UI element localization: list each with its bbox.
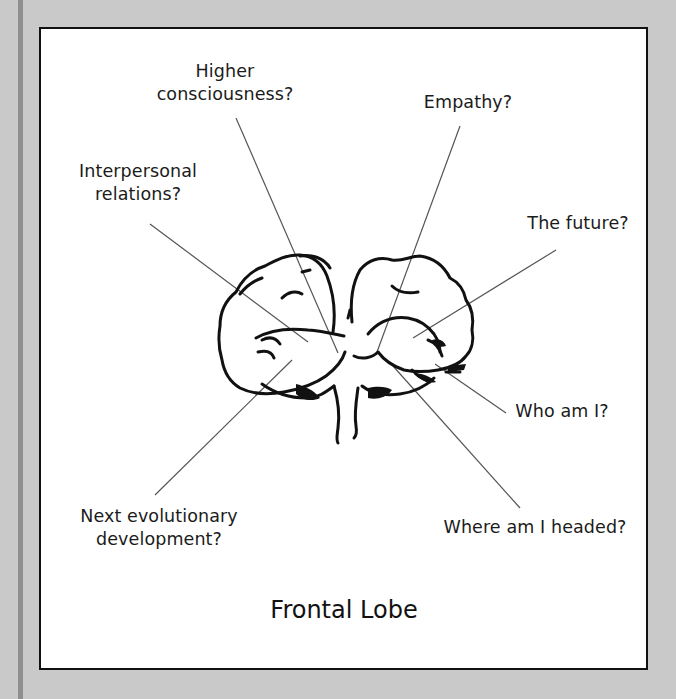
label-line: development? — [66, 528, 252, 551]
label-line: Who am I? — [510, 400, 614, 423]
leader-lines — [150, 118, 556, 508]
label-line: Next evolutionary — [66, 505, 252, 528]
label-empathy: Empathy? — [416, 91, 520, 114]
label-line: Empathy? — [416, 91, 520, 114]
label-line: consciousness? — [150, 83, 300, 106]
label-line: Where am I headed? — [424, 516, 646, 539]
brain-icon — [219, 255, 473, 443]
leader-line-where-headed — [393, 366, 520, 508]
label-interpersonal-relations: Interpersonal relations? — [68, 160, 208, 206]
label-where-am-i-headed: Where am I headed? — [424, 516, 646, 539]
label-line: relations? — [68, 183, 208, 206]
label-next-evolutionary-development: Next evolutionary development? — [66, 505, 252, 551]
label-higher-consciousness: Higher consciousness? — [150, 60, 300, 106]
label-line: Interpersonal — [68, 160, 208, 183]
leader-line-higher-consciousness — [236, 118, 338, 353]
label-line: Higher — [150, 60, 300, 83]
leader-line-interpersonal — [150, 224, 308, 342]
leader-line-next-evolutionary — [155, 360, 292, 495]
brain-illustration — [0, 0, 676, 699]
label-line: The future? — [516, 212, 640, 235]
diagram-title: Frontal Lobe — [244, 596, 444, 624]
label-the-future: The future? — [516, 212, 640, 235]
leader-line-future — [413, 250, 556, 338]
label-who-am-i: Who am I? — [510, 400, 614, 423]
